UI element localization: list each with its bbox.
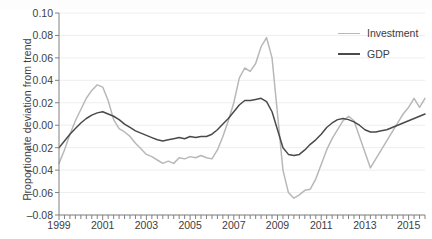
chart-figure: Proportionate deviation from trend 0.100… [0, 0, 432, 239]
x-axis-tick-label: 2001 [91, 219, 114, 231]
x-axis-tick-label: 2009 [266, 219, 289, 231]
legend-swatch-investment [338, 33, 360, 34]
x-axis-tick-label: 2011 [310, 219, 333, 231]
y-axis-tick-label: –0.04 [19, 164, 53, 176]
legend-label: GDP [367, 48, 390, 60]
y-axis-tick-label: 0.06 [19, 52, 53, 64]
legend-item-gdp[interactable]: GDP [338, 48, 390, 60]
x-axis-tick-label: 2005 [178, 219, 201, 231]
y-axis-tick-labels: 0.100.080.060.040.020.00–0.02–0.04–0.06–… [15, 13, 53, 215]
y-axis-tick-label: 0.00 [19, 119, 53, 131]
legend-item-investment[interactable]: Investment [338, 27, 418, 39]
series-line-investment [59, 38, 425, 198]
top-margin-strip [0, 0, 432, 9]
y-axis-tick-label: 0.10 [19, 7, 53, 19]
y-axis-tick-label: 0.02 [19, 97, 53, 109]
x-axis-tick-label: 2013 [353, 219, 376, 231]
x-axis-tick-label: 2003 [135, 219, 158, 231]
plot-svg [59, 13, 425, 215]
y-axis-tick-label: 0.08 [19, 29, 53, 41]
x-axis-tick-label: 2015 [397, 219, 420, 231]
x-axis-tick-label: 1999 [47, 219, 70, 231]
y-axis-tick-label: –0.06 [19, 187, 53, 199]
plot-area [59, 13, 425, 215]
legend-label: Investment [367, 27, 418, 39]
y-axis-tick-label: 0.04 [19, 74, 53, 86]
series-line-gdp [59, 98, 425, 155]
y-axis-tick-label: –0.02 [19, 142, 53, 154]
legend-swatch-gdp [338, 53, 360, 55]
x-axis-tick-label: 2007 [222, 219, 245, 231]
